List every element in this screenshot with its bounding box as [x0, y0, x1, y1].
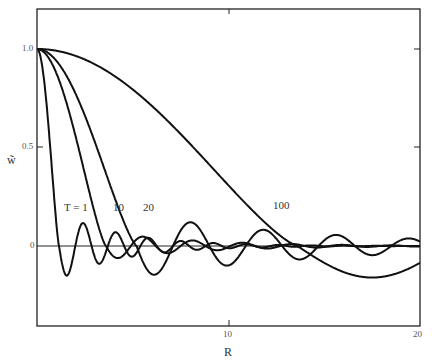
y-axis-label: w̃ — [7, 153, 16, 168]
x-axis-label: R — [224, 345, 232, 360]
x-tick-label-10: 10 — [223, 329, 232, 339]
curve-label-t1: T = 1 — [64, 201, 88, 213]
curve-label-t10: 10 — [113, 201, 124, 213]
chart-canvas — [0, 0, 432, 364]
curve-t20 — [37, 49, 420, 275]
y-tick-label-0.5: 0.5 — [22, 141, 33, 151]
plot-frame — [37, 9, 420, 326]
y-tick-label-0: 0 — [30, 240, 35, 250]
curve-t100 — [37, 49, 420, 278]
curve-label-t100: 100 — [273, 199, 290, 211]
x-tick-label-20: 20 — [413, 329, 422, 339]
curve-t1 — [37, 49, 420, 276]
curve-t10 — [37, 49, 420, 258]
curves — [37, 49, 420, 278]
y-tick-label-1: 1.0 — [22, 43, 33, 53]
curve-label-t20: 20 — [143, 201, 154, 213]
